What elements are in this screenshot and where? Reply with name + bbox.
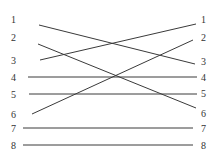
left-label-1: 1 <box>11 14 16 25</box>
right-label-5: 5 <box>201 88 206 99</box>
line-2-to-6 <box>38 44 196 108</box>
left-label-5: 5 <box>11 89 16 100</box>
left-label-6: 6 <box>11 109 16 120</box>
line-1-to-3 <box>39 25 195 64</box>
line-3-to-1 <box>40 24 196 60</box>
left-label-3: 3 <box>11 55 16 66</box>
diagram-svg: 1 2 3 4 5 6 7 8 1 2 3 4 5 6 7 8 <box>0 0 218 161</box>
right-label-4: 4 <box>201 72 206 83</box>
right-label-8: 8 <box>201 140 206 151</box>
left-label-8: 8 <box>11 140 16 151</box>
right-label-1: 1 <box>201 14 206 25</box>
right-label-2: 2 <box>201 32 206 43</box>
right-label-3: 3 <box>201 56 206 67</box>
right-label-6: 6 <box>201 108 206 119</box>
left-label-4: 4 <box>11 72 16 83</box>
left-label-2: 2 <box>11 32 16 43</box>
left-label-7: 7 <box>11 123 16 134</box>
right-label-7: 7 <box>201 123 206 134</box>
crossing-lines-diagram: 1 2 3 4 5 6 7 8 1 2 3 4 5 6 7 8 <box>0 0 218 161</box>
